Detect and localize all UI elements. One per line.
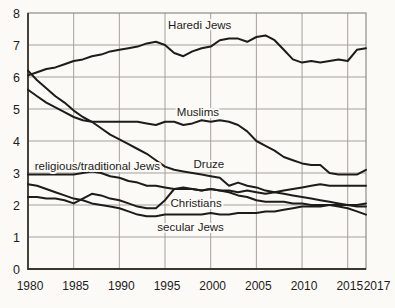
series-label-haredi-jews: Haredi Jews [168,19,232,31]
x-tick-label: 1990 [108,279,135,293]
x-tick-label: 2010 [291,279,318,293]
series-label-druze: Druze [194,158,225,170]
chart-background [0,0,395,308]
fertility-chart-page: Haredi JewsMuslimsDruzereligious/traditi… [0,0,395,308]
series-label-muslims: Muslims [177,106,219,118]
x-tick-label: 1995 [154,279,181,293]
x-tick-label: 1980 [17,279,44,293]
series-label-secular-jews: secular Jews [157,221,224,233]
x-tick-label: 2017 [364,279,391,293]
y-tick-label: 4 [13,135,20,149]
fertility-line-chart: Haredi JewsMuslimsDruzereligious/traditi… [0,0,395,308]
y-tick-label: 1 [13,231,20,245]
x-tick-label: 1985 [62,279,89,293]
x-tick-label: 2000 [199,279,226,293]
y-tick-label: 0 [13,263,20,277]
series-label-christians: Christians [171,197,222,209]
y-tick-label: 5 [13,103,20,117]
y-tick-label: 8 [13,7,20,21]
y-tick-label: 3 [13,167,20,181]
y-tick-label: 2 [13,199,20,213]
x-tick-label: 2005 [245,279,272,293]
x-tick-label: 2015 [336,279,363,293]
series-label-religious-traditional-jews: religious/traditional Jews [35,160,161,172]
y-tick-label: 6 [13,71,20,85]
y-tick-label: 7 [13,39,20,53]
